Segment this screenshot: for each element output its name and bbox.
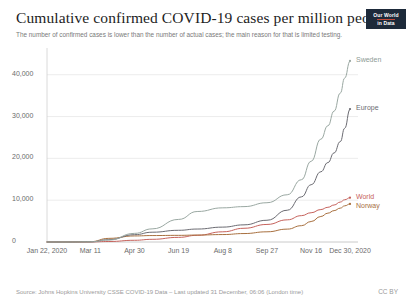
series-endpoint-europe <box>349 108 351 110</box>
series-label-norway[interactable]: Norway <box>356 202 380 209</box>
x-tick-label: Dec 30, 2020 <box>314 247 386 254</box>
y-tick-label: 10,000 <box>12 195 33 202</box>
series-label-sweden[interactable]: Sweden <box>356 56 381 63</box>
series-line-norway[interactable] <box>47 204 350 242</box>
source-text: Source: Johns Hopkins University CSSE CO… <box>16 289 303 295</box>
y-tick-label: 0 <box>12 237 16 244</box>
page-title: Cumulative confirmed COVID-19 cases per … <box>16 8 366 27</box>
plot-area: 010,00020,00030,00040,000 Jan 22, 2020Ma… <box>0 44 414 276</box>
y-tick-label: 20,000 <box>12 153 33 160</box>
series-endpoint-norway <box>349 203 351 205</box>
line-chart-svg <box>0 44 414 276</box>
y-tick-label: 30,000 <box>12 112 33 119</box>
series-label-europe[interactable]: Europe <box>356 104 379 111</box>
chart-footer: Source: Johns Hopkins University CSSE CO… <box>16 288 414 295</box>
y-tick-label: 40,000 <box>12 70 33 77</box>
our-world-in-data-logo[interactable]: Our World in Data <box>366 9 406 29</box>
logo-line-2: in Data <box>377 19 394 27</box>
license-label[interactable]: CC BY <box>378 288 398 295</box>
series-label-world[interactable]: World <box>356 193 374 200</box>
series-endpoint-world <box>349 197 351 199</box>
series-endpoint-sweden <box>349 60 351 62</box>
logo-line-1: Our World <box>373 12 398 18</box>
chart-subtitle: The number of confirmed cases is lower t… <box>16 30 366 40</box>
chart-container: Cumulative confirmed COVID-19 cases per … <box>0 0 414 303</box>
chart-header: Cumulative confirmed COVID-19 cases per … <box>16 8 366 40</box>
